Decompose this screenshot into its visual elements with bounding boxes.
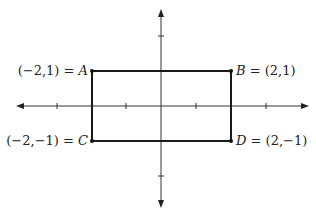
point-b <box>229 69 233 73</box>
coordinate-plane: (−2,1) = A B = (2,1) (−2,−1) = C D = (2,… <box>0 0 316 217</box>
y-axis-up-arrow-icon <box>158 9 164 17</box>
x-axis-right-arrow-icon <box>301 103 309 109</box>
x-axis <box>16 103 309 109</box>
label-a: (−2,1) = A <box>18 63 88 78</box>
x-axis-left-arrow-icon <box>16 103 24 109</box>
label-b: B = (2,1) <box>235 63 296 78</box>
label-d: D = (2,−1) <box>235 133 307 148</box>
label-c: (−2,−1) = C <box>6 133 88 148</box>
y-axis <box>158 9 164 208</box>
point-a <box>90 69 94 73</box>
y-axis-down-arrow-icon <box>158 200 164 208</box>
point-d <box>229 139 233 143</box>
point-c <box>90 139 94 143</box>
